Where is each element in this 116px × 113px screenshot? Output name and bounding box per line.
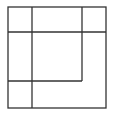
divider-lines	[8, 7, 106, 108]
grid-diagram	[0, 0, 116, 113]
outer-box	[8, 7, 106, 108]
